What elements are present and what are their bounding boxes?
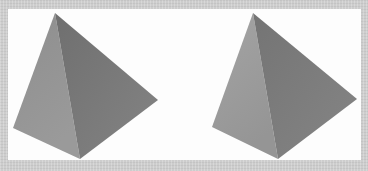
pyramid-right: [212, 13, 357, 159]
pyramid-left: [13, 13, 158, 159]
pyramids-scene: [0, 0, 368, 171]
